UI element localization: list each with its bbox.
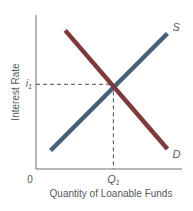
x-tick-sub: 1	[116, 179, 120, 186]
x-axis-title: Quantity of Loanable Funds	[50, 188, 173, 199]
demand-curve-label: D	[172, 148, 180, 160]
x-tick-label-q1: Q1	[107, 173, 120, 186]
supply-curve	[51, 33, 168, 150]
supply-curve-label: S	[172, 21, 180, 33]
y-tick-label-i1: i1	[26, 78, 32, 90]
y-tick-sub: 1	[28, 83, 32, 90]
y-axis-title: Interest Rate	[10, 63, 21, 121]
chart: S D i1 Q1 0 Quantity of Loanable Funds I…	[0, 0, 193, 211]
origin-label: 0	[27, 174, 33, 185]
